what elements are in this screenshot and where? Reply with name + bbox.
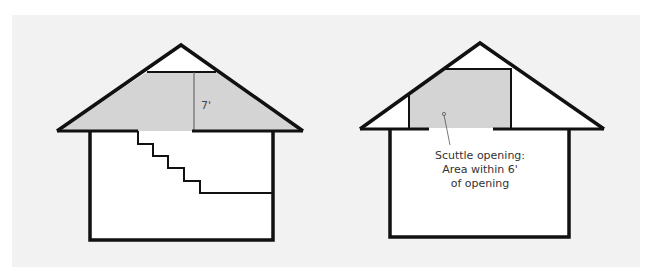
callout-text-line-3: of opening [451, 177, 510, 190]
callout-text-line-2: Area within 6' [442, 163, 518, 176]
callout-text-line-1: Scuttle opening: [435, 149, 525, 162]
attic-diagram-figure: 7' Scuttle opening: Area wi [0, 0, 653, 279]
left-house-body [90, 131, 273, 240]
left-height-dimension-label: 7' [201, 99, 211, 112]
